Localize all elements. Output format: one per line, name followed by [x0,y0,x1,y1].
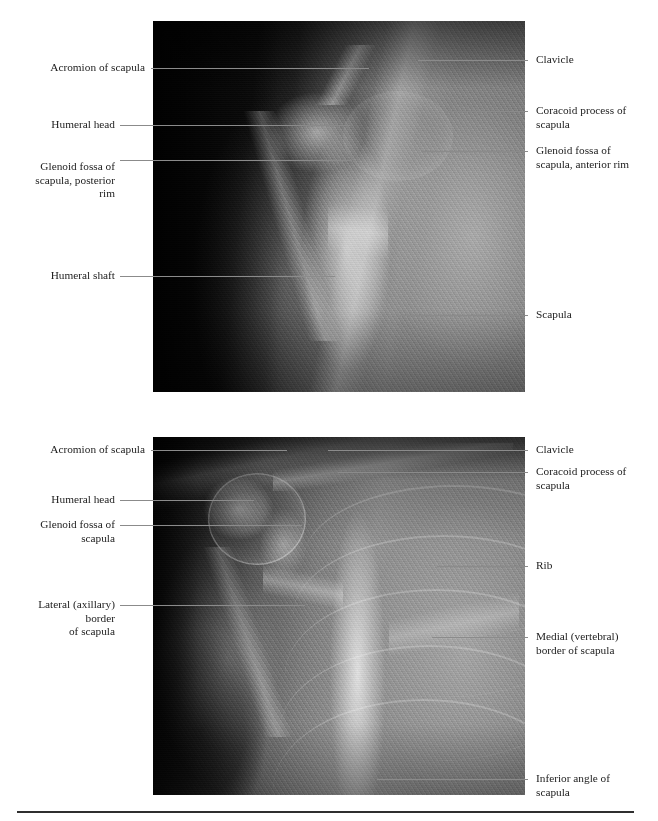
radiograph-figure: Acromion of scapula Humeral head Glenoid… [0,0,658,821]
label-glenoid-fossa-of-scapula-bottom: Glenoid fossa of scapula [20,518,115,545]
label-humeral-head-bottom: Humeral head [20,493,115,507]
label-humeral-shaft-top: Humeral shaft [20,269,115,283]
label-lateral-axillary-border-bottom: Lateral (axillary) border of scapula [12,598,115,639]
label-clavicle-top: Clavicle [536,53,651,67]
xray-canvas-bottom [153,437,525,795]
label-clavicle-bottom: Clavicle [536,443,651,457]
label-inferior-angle-of-scapula-bottom: Inferior angle of scapula [536,772,651,799]
footer-divider-rule [17,811,634,813]
label-coracoid-process-bottom: Coracoid process of scapula [536,465,651,492]
xray-image-top [153,21,525,392]
label-coracoid-process-top: Coracoid process of scapula [536,104,651,131]
label-glenoid-fossa-posterior-rim-top: Glenoid fossa of scapula, posterior rim [20,160,115,201]
label-acromion-of-scapula-top: Acromion of scapula [20,61,145,75]
label-glenoid-fossa-anterior-rim-top: Glenoid fossa of scapula, anterior rim [536,144,656,171]
label-humeral-head-top: Humeral head [20,118,115,132]
label-scapula-top: Scapula [536,308,651,322]
xray-image-bottom [153,437,525,795]
label-acromion-of-scapula-bottom: Acromion of scapula [20,443,145,457]
label-medial-vertebral-border-bottom: Medial (vertebral) border of scapula [536,630,654,657]
xray-canvas-top [153,21,525,392]
label-rib-bottom: Rib [536,559,651,573]
